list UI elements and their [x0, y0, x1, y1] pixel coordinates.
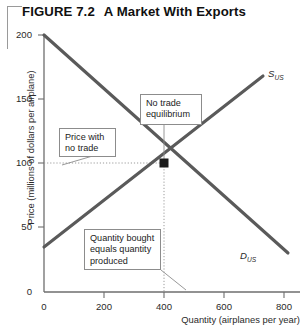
supply-subscript: US	[274, 74, 283, 81]
figure-container: FIGURE 7.2A Market With Exports	[0, 0, 305, 332]
demand-subscript: US	[247, 256, 256, 263]
plot-area: Price (millions of dollars per airplane)…	[0, 22, 305, 332]
y-tick-label-150: 150	[2, 93, 32, 104]
x-axis-label: Quantity (airplanes per year)	[150, 314, 300, 325]
equilibrium-marker	[160, 159, 169, 168]
figure-title: FIGURE 7.2A Market With Exports	[22, 4, 300, 22]
x-tick-label-400: 400	[144, 301, 184, 312]
demand-curve-label: DUS	[240, 250, 256, 263]
demand-symbol: D	[240, 250, 247, 261]
y-tick-label-0: 0	[2, 286, 32, 297]
callout-no-trade-equilibrium: No trade equilibrium	[140, 94, 202, 125]
figure-number: FIGURE 7.2	[22, 4, 95, 19]
y-tick-label-50: 50	[2, 221, 32, 232]
callout-quantity-bought-equals-produced: Quantity bought equals quantity produced	[84, 229, 161, 270]
quantity-callout-leader	[161, 270, 186, 290]
x-tick-label-0: 0	[24, 301, 64, 312]
figure-name: A Market With Exports	[104, 4, 246, 19]
x-tick-label-800: 800	[264, 301, 304, 312]
y-tick-label-100: 100	[2, 157, 32, 168]
supply-curve-label: SUS	[268, 68, 284, 81]
y-tick-label-200: 200	[2, 29, 32, 40]
x-tick-label-200: 200	[84, 301, 124, 312]
chart-svg	[0, 22, 305, 332]
x-tick-label-600: 600	[204, 301, 244, 312]
callout-price-with-no-trade: Price with no trade	[59, 128, 116, 157]
